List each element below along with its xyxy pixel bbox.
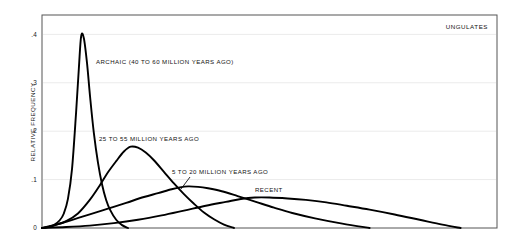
relative-frequency-line-chart: .4.3.2.10 RELATIVE FREQUENCY UNGULATES A… bbox=[0, 0, 523, 242]
chart-background bbox=[0, 0, 523, 242]
chart-corner-label: UNGULATES bbox=[446, 23, 488, 30]
archaic-label: ARCHAIC (40 TO 60 MILLION YEARS AGO) bbox=[96, 58, 234, 65]
y-tick-label: 0 bbox=[33, 224, 37, 231]
recent-label: RECENT bbox=[255, 186, 283, 193]
chart-figure: .4.3.2.10 RELATIVE FREQUENCY UNGULATES A… bbox=[0, 0, 523, 242]
y-axis-title: RELATIVE FREQUENCY bbox=[29, 82, 36, 161]
late-label: 5 TO 20 MILLION YEARS AGO bbox=[172, 168, 268, 175]
y-tick-label: .1 bbox=[31, 176, 37, 183]
mid-label: 25 TO 55 MILLION YEARS AGO bbox=[99, 135, 199, 142]
y-tick-label: .4 bbox=[31, 31, 37, 38]
